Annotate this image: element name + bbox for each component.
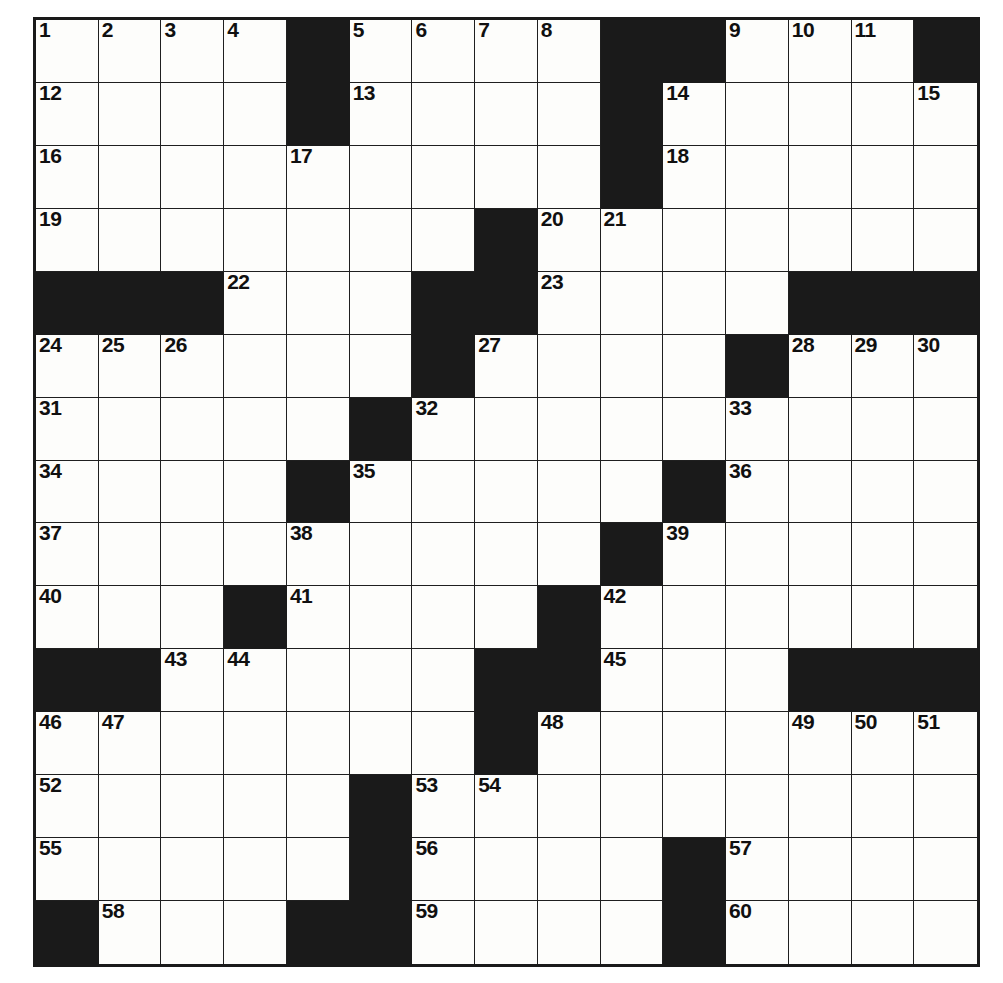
crossword-open-cell[interactable]	[475, 461, 538, 524]
crossword-open-cell[interactable]: 39	[663, 523, 726, 586]
crossword-open-cell[interactable]	[538, 901, 601, 964]
crossword-open-cell[interactable]	[789, 83, 852, 146]
crossword-open-cell[interactable]: 9	[726, 20, 789, 83]
crossword-open-cell[interactable]	[224, 775, 287, 838]
crossword-open-cell[interactable]	[726, 272, 789, 335]
crossword-open-cell[interactable]	[538, 461, 601, 524]
crossword-open-cell[interactable]	[789, 523, 852, 586]
crossword-open-cell[interactable]	[287, 272, 350, 335]
crossword-open-cell[interactable]: 32	[412, 398, 475, 461]
crossword-open-cell[interactable]	[914, 146, 977, 209]
crossword-open-cell[interactable]	[852, 523, 915, 586]
crossword-open-cell[interactable]	[726, 775, 789, 838]
crossword-open-cell[interactable]	[99, 398, 162, 461]
crossword-open-cell[interactable]: 8	[538, 20, 601, 83]
crossword-open-cell[interactable]	[287, 712, 350, 775]
crossword-open-cell[interactable]	[412, 146, 475, 209]
crossword-open-cell[interactable]	[538, 398, 601, 461]
crossword-open-cell[interactable]	[99, 838, 162, 901]
crossword-open-cell[interactable]	[789, 586, 852, 649]
crossword-open-cell[interactable]: 22	[224, 272, 287, 335]
crossword-open-cell[interactable]	[475, 838, 538, 901]
crossword-open-cell[interactable]	[99, 209, 162, 272]
crossword-open-cell[interactable]	[412, 523, 475, 586]
crossword-open-cell[interactable]	[161, 83, 224, 146]
crossword-open-cell[interactable]	[601, 775, 664, 838]
crossword-open-cell[interactable]	[914, 523, 977, 586]
crossword-open-cell[interactable]	[726, 586, 789, 649]
crossword-open-cell[interactable]	[663, 209, 726, 272]
crossword-open-cell[interactable]	[99, 461, 162, 524]
crossword-open-cell[interactable]	[538, 146, 601, 209]
crossword-open-cell[interactable]	[412, 461, 475, 524]
crossword-open-cell[interactable]: 5	[350, 20, 413, 83]
crossword-open-cell[interactable]	[852, 901, 915, 964]
crossword-open-cell[interactable]	[789, 461, 852, 524]
crossword-open-cell[interactable]: 49	[789, 712, 852, 775]
crossword-open-cell[interactable]	[224, 901, 287, 964]
crossword-open-cell[interactable]: 57	[726, 838, 789, 901]
crossword-open-cell[interactable]	[350, 523, 413, 586]
crossword-open-cell[interactable]	[224, 838, 287, 901]
crossword-open-cell[interactable]: 41	[287, 586, 350, 649]
crossword-open-cell[interactable]	[224, 335, 287, 398]
crossword-open-cell[interactable]	[350, 146, 413, 209]
crossword-open-cell[interactable]	[350, 272, 413, 335]
crossword-open-cell[interactable]	[161, 209, 224, 272]
crossword-open-cell[interactable]	[538, 775, 601, 838]
crossword-open-cell[interactable]	[726, 712, 789, 775]
crossword-open-cell[interactable]	[726, 83, 789, 146]
crossword-open-cell[interactable]	[475, 146, 538, 209]
crossword-open-cell[interactable]	[852, 398, 915, 461]
crossword-open-cell[interactable]: 34	[36, 461, 99, 524]
crossword-open-cell[interactable]: 54	[475, 775, 538, 838]
crossword-open-cell[interactable]	[475, 586, 538, 649]
crossword-open-cell[interactable]	[852, 461, 915, 524]
crossword-open-cell[interactable]	[161, 461, 224, 524]
crossword-open-cell[interactable]	[538, 838, 601, 901]
crossword-open-cell[interactable]	[224, 83, 287, 146]
crossword-open-cell[interactable]	[350, 712, 413, 775]
crossword-open-cell[interactable]: 40	[36, 586, 99, 649]
crossword-open-cell[interactable]: 12	[36, 83, 99, 146]
crossword-open-cell[interactable]: 26	[161, 335, 224, 398]
crossword-open-cell[interactable]: 48	[538, 712, 601, 775]
crossword-open-cell[interactable]	[789, 838, 852, 901]
crossword-open-cell[interactable]: 58	[99, 901, 162, 964]
crossword-open-cell[interactable]	[161, 586, 224, 649]
crossword-open-cell[interactable]: 38	[287, 523, 350, 586]
crossword-open-cell[interactable]	[99, 523, 162, 586]
crossword-open-cell[interactable]: 1	[36, 20, 99, 83]
crossword-open-cell[interactable]	[161, 901, 224, 964]
crossword-open-cell[interactable]: 2	[99, 20, 162, 83]
crossword-open-cell[interactable]	[726, 209, 789, 272]
crossword-open-cell[interactable]: 53	[412, 775, 475, 838]
crossword-open-cell[interactable]: 51	[914, 712, 977, 775]
crossword-open-cell[interactable]	[161, 775, 224, 838]
crossword-open-cell[interactable]	[663, 586, 726, 649]
crossword-open-cell[interactable]: 21	[601, 209, 664, 272]
crossword-open-cell[interactable]	[663, 272, 726, 335]
crossword-open-cell[interactable]: 6	[412, 20, 475, 83]
crossword-open-cell[interactable]: 45	[601, 649, 664, 712]
crossword-open-cell[interactable]: 28	[789, 335, 852, 398]
crossword-open-cell[interactable]: 15	[914, 83, 977, 146]
crossword-open-cell[interactable]	[914, 209, 977, 272]
crossword-open-cell[interactable]: 46	[36, 712, 99, 775]
crossword-open-cell[interactable]	[475, 523, 538, 586]
crossword-open-cell[interactable]	[475, 83, 538, 146]
crossword-open-cell[interactable]	[287, 775, 350, 838]
crossword-open-cell[interactable]: 33	[726, 398, 789, 461]
crossword-open-cell[interactable]: 55	[36, 838, 99, 901]
crossword-open-cell[interactable]: 27	[475, 335, 538, 398]
crossword-open-cell[interactable]: 30	[914, 335, 977, 398]
crossword-open-cell[interactable]	[224, 461, 287, 524]
crossword-open-cell[interactable]	[914, 838, 977, 901]
crossword-open-cell[interactable]: 35	[350, 461, 413, 524]
crossword-open-cell[interactable]: 16	[36, 146, 99, 209]
crossword-open-cell[interactable]	[852, 209, 915, 272]
crossword-open-cell[interactable]: 18	[663, 146, 726, 209]
crossword-open-cell[interactable]	[852, 146, 915, 209]
crossword-open-cell[interactable]: 52	[36, 775, 99, 838]
crossword-open-cell[interactable]	[852, 775, 915, 838]
